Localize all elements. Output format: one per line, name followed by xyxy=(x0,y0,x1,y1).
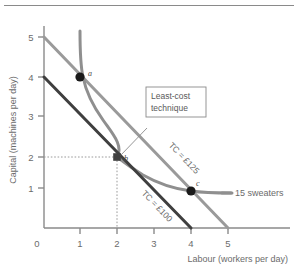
y-tick-label-5: 5 xyxy=(28,32,33,43)
isocost-line-125 xyxy=(44,37,228,228)
chart-canvas: 5 4 3 2 1 0 1 2 3 4 5 Capital (machines … xyxy=(0,0,298,270)
data-point-b-label: b xyxy=(124,154,128,163)
axis-group xyxy=(38,26,290,234)
data-point-c-label: c xyxy=(196,179,200,188)
guide-lines-group xyxy=(44,157,117,228)
x-tick-label-5: 5 xyxy=(225,238,230,249)
x-tick-label-2: 2 xyxy=(114,238,119,249)
x-tick-label-0: 0 xyxy=(34,238,39,249)
y-axis-title: Capital (machines per day) xyxy=(8,76,18,184)
data-point-b-marker xyxy=(113,153,121,161)
y-tick-label-1: 1 xyxy=(28,183,33,194)
x-tick-label-1: 1 xyxy=(77,238,82,249)
x-tick-label-3: 3 xyxy=(151,238,156,249)
chart-figure: 5 4 3 2 1 0 1 2 3 4 5 Capital (machines … xyxy=(0,0,298,270)
callout-line-2: technique xyxy=(151,103,188,113)
data-point-c-marker xyxy=(186,186,195,195)
callout-line-1: Least-cost xyxy=(151,91,191,101)
callout-leader-line xyxy=(120,128,147,156)
data-point-a-label: a xyxy=(88,69,92,78)
isoquant-label: 15 sweaters xyxy=(235,188,284,198)
least-cost-technique-callout: Least-cost technique xyxy=(146,87,206,117)
x-axis-title: Labour (workers per day) xyxy=(187,254,288,264)
y-tick-label-3: 3 xyxy=(28,111,33,122)
y-tick-label-4: 4 xyxy=(28,72,33,83)
y-tick-label-2: 2 xyxy=(28,152,33,163)
data-point-a-marker xyxy=(75,72,84,81)
x-tick-label-4: 4 xyxy=(188,238,193,249)
